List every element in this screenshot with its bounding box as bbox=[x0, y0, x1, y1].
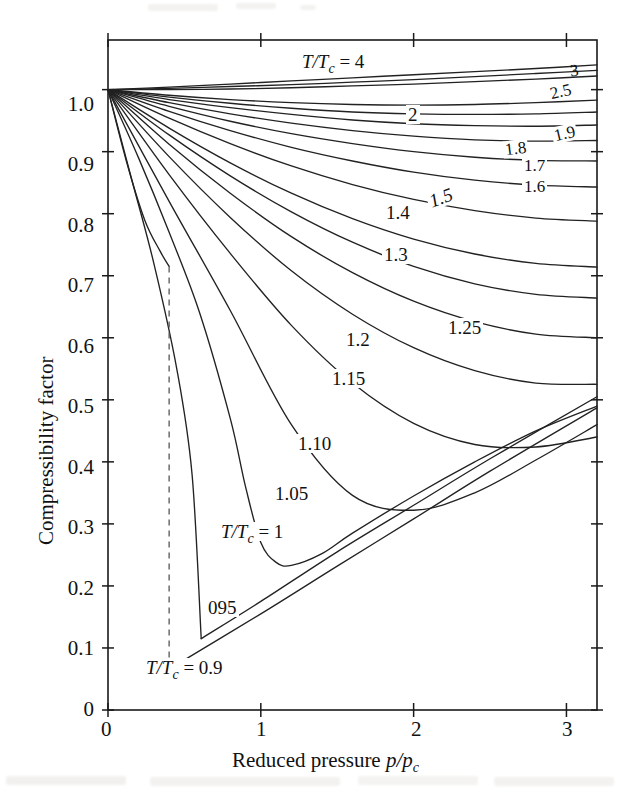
curve-label-1-4: 1.4 bbox=[384, 203, 412, 222]
y-tick-label: 0.6 bbox=[42, 336, 94, 357]
curve-label-subscript: c bbox=[172, 667, 178, 682]
curve-label-symbol: T/T bbox=[221, 521, 247, 542]
x-tick-label: 3 bbox=[562, 719, 573, 740]
chart-plot-area bbox=[0, 0, 632, 790]
x-tick-label: 1 bbox=[256, 719, 267, 740]
curve-label-value: = 0.9 bbox=[179, 657, 223, 678]
curve-label-0-95: 095 bbox=[206, 598, 239, 617]
curve-label-1-25: 1.25 bbox=[446, 318, 483, 337]
isotherm-curve bbox=[108, 90, 597, 127]
curve-label-3: 3 bbox=[567, 61, 581, 79]
curve-label-1-10: 1.10 bbox=[296, 434, 333, 453]
y-tick-label: 0.1 bbox=[42, 638, 94, 659]
isotherm-curve bbox=[108, 90, 201, 639]
y-tick-label: 1.0 bbox=[42, 94, 94, 115]
isotherm-curve bbox=[201, 397, 597, 639]
curve-label-tc0-9: T/Tc = 0.9 bbox=[144, 658, 225, 677]
isotherm-curve bbox=[108, 90, 169, 267]
curve-label-subscript: c bbox=[328, 61, 334, 76]
curve-label-1-6: 1.6 bbox=[522, 178, 547, 195]
y-tick-label: 0.7 bbox=[42, 275, 94, 296]
curve-label-tc4: T/Tc = 4 bbox=[300, 52, 366, 71]
curve-label-value: = 4 bbox=[335, 51, 365, 72]
curve-label-symbol: T/T bbox=[302, 51, 328, 72]
isotherm-curve bbox=[108, 90, 597, 115]
y-tick-label: 0 bbox=[42, 699, 94, 720]
curve-label-symbol: T/T bbox=[146, 657, 172, 678]
curve-label-subscript: c bbox=[247, 531, 253, 546]
y-axis-title: Compressibility factor bbox=[34, 357, 59, 545]
isotherm-curve bbox=[108, 90, 597, 106]
curve-label-1-7: 1.7 bbox=[522, 157, 547, 174]
y-tick-label: 0.9 bbox=[42, 154, 94, 175]
curve-label-tc1: T/Tc = 1 bbox=[219, 522, 285, 541]
x-axis-title-subscript: c bbox=[413, 760, 419, 775]
curve-label-1-05: 1.05 bbox=[273, 484, 310, 503]
x-axis-title: Reduced pressure p/pc bbox=[232, 748, 419, 773]
x-axis-title-symbol: p/p bbox=[386, 748, 413, 772]
y-tick-label: 0.2 bbox=[42, 578, 94, 599]
curve-label-1-15: 1.15 bbox=[330, 369, 367, 388]
curve-label-2: 2 bbox=[406, 105, 420, 124]
curve-label-value: = 1 bbox=[254, 521, 284, 542]
compressibility-chart-figure: 1.0 0.9 0.8 0.7 0.6 0.5 0.4 0.3 0.2 0.1 … bbox=[0, 0, 632, 790]
x-axis-title-plain: Reduced pressure bbox=[232, 748, 386, 772]
y-tick-label: 0.8 bbox=[42, 215, 94, 236]
curve-label-1-2: 1.2 bbox=[344, 330, 372, 349]
x-tick-label: 0 bbox=[101, 719, 112, 740]
x-tick-label: 2 bbox=[411, 719, 422, 740]
curve-label-1-3: 1.3 bbox=[382, 245, 410, 264]
